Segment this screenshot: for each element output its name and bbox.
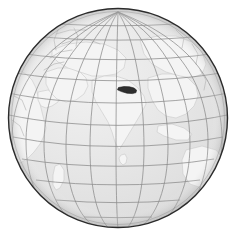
globe-rim-shading xyxy=(9,9,228,228)
globe-svg: Nepal locator globe xyxy=(0,0,237,235)
globe-figure: Nepal locator globe xyxy=(0,0,237,235)
